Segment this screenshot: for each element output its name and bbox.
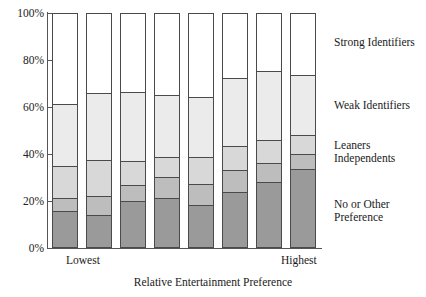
bar-column[interactable] (52, 13, 78, 248)
bar-segment (223, 193, 247, 247)
bar-segment (223, 79, 247, 147)
x-axis-label-highest: Highest (281, 254, 317, 266)
bar-segment (189, 206, 213, 247)
legend-label-leaners: Leaners (334, 139, 370, 152)
bar-column[interactable] (290, 13, 316, 248)
bar-segment (257, 14, 281, 72)
bar-segment (291, 155, 315, 170)
legend-label-no-or-other-preference: No or Other Preference (334, 198, 390, 223)
plot-area (48, 13, 320, 248)
y-axis-tick-label: 100% (17, 7, 44, 19)
legend-label-no-or-other-preference-line2: Preference (334, 211, 390, 224)
bar-segment (189, 185, 213, 206)
bar-segment (257, 72, 281, 141)
x-axis-line (47, 248, 322, 249)
bar-segment (87, 216, 111, 247)
bar-segment (121, 93, 145, 162)
x-axis-title: Relative Entertainment Preference (0, 276, 426, 288)
bar-segment (291, 76, 315, 137)
bar-column[interactable] (222, 13, 248, 248)
bar-segment (53, 14, 77, 105)
bar-segment (155, 158, 179, 178)
x-axis-label-lowest: Lowest (66, 254, 100, 266)
bar-segment (87, 14, 111, 94)
bar-segment (121, 162, 145, 186)
bar-column[interactable] (120, 13, 146, 248)
bar-column[interactable] (188, 13, 214, 248)
bar-segment (87, 94, 111, 160)
bar-segment (121, 14, 145, 93)
bar-segment (189, 14, 213, 98)
y-axis-tick-label: 60% (23, 101, 44, 113)
bar-segment (291, 14, 315, 76)
legend-label-independents: Independents (334, 152, 395, 165)
y-axis-tick-label: 40% (23, 148, 44, 160)
bar-segment (155, 14, 179, 96)
bar-segment (155, 199, 179, 247)
bar-segment (257, 164, 281, 183)
bar-segment (121, 202, 145, 247)
legend-label-no-or-other-preference-line1: No or Other (334, 198, 390, 211)
bar-segment (223, 171, 247, 193)
bar-segment (223, 147, 247, 171)
y-axis-tick-label: 80% (23, 54, 44, 66)
bar-segment (53, 212, 77, 247)
bar-segment (53, 105, 77, 167)
legend-label-weak-identifiers: Weak Identifiers (334, 99, 410, 112)
bar-segment (257, 183, 281, 247)
bar-segment (257, 141, 281, 164)
bar-column[interactable] (154, 13, 180, 248)
bar-segment (53, 199, 77, 212)
bar-segment (53, 167, 77, 200)
y-axis-tick-label: 0% (29, 242, 44, 254)
bar-segment (189, 158, 213, 185)
bar-segment (155, 96, 179, 159)
bar-segment (223, 14, 247, 79)
y-axis-tick-label: 20% (23, 195, 44, 207)
bar-segment (189, 98, 213, 159)
bar-column[interactable] (256, 13, 282, 248)
bar-segment (291, 136, 315, 155)
bar-column[interactable] (86, 13, 112, 248)
legend-label-strong-identifiers: Strong Identifiers (334, 36, 415, 49)
stacked-bar-chart: 0%20%40%60%80%100% Lowest Highest Relati… (0, 0, 426, 297)
bar-segment (121, 186, 145, 201)
bar-segment (155, 178, 179, 199)
bar-segment (291, 170, 315, 247)
bar-segment (87, 161, 111, 197)
bar-segment (87, 197, 111, 216)
